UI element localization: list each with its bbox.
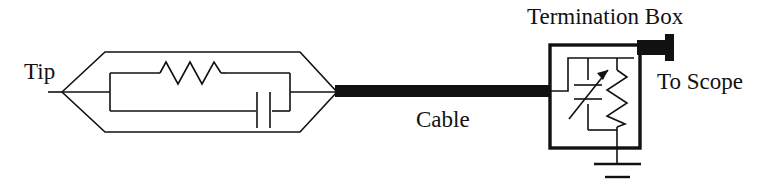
termination-box-enclosure xyxy=(550,45,640,148)
label-tip: Tip xyxy=(24,60,55,83)
label-to-scope: To Scope xyxy=(657,70,743,93)
scope-connector xyxy=(637,34,674,61)
probe-resistor xyxy=(160,62,227,84)
label-cable: Cable xyxy=(416,108,470,131)
termination-resistor xyxy=(607,70,627,127)
coaxial-cable xyxy=(335,85,550,97)
probe-schematic-diagram: Tip Cable Termination Box To Scope xyxy=(0,0,770,193)
probe-capacitor xyxy=(257,92,270,128)
label-termination-box: Termination Box xyxy=(527,5,683,28)
probe-rc-network xyxy=(110,73,337,111)
ground-symbol xyxy=(594,164,641,177)
